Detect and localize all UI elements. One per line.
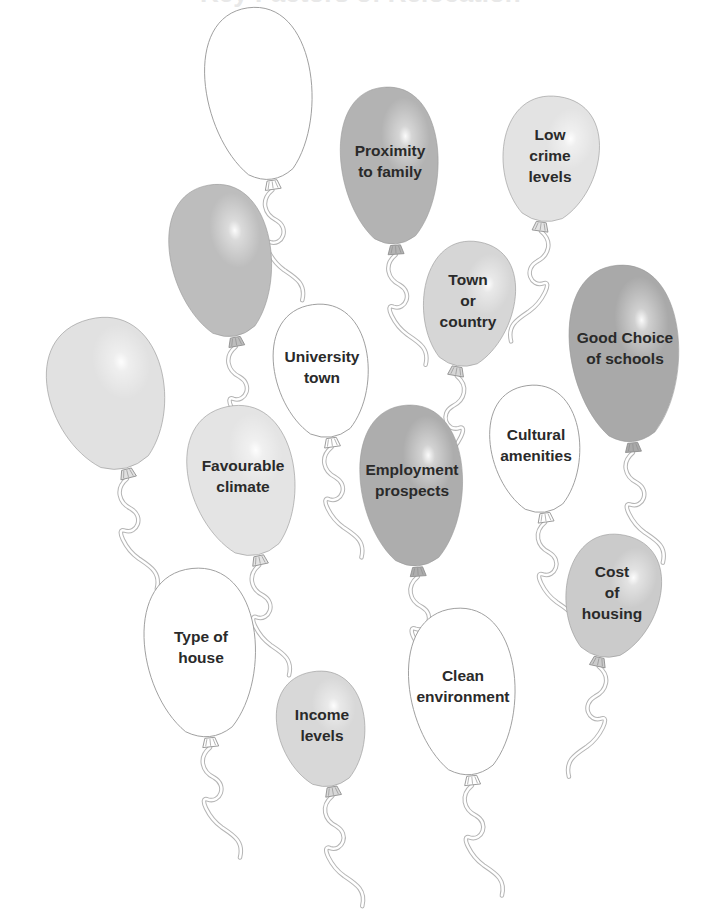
balloon-blank-left — [33, 305, 185, 492]
balloon-string — [120, 479, 158, 589]
balloon-string — [568, 667, 606, 777]
balloon-string — [324, 447, 362, 557]
balloon-cost-housing — [551, 526, 671, 676]
balloon-string — [265, 190, 303, 300]
balloon-string — [465, 786, 503, 896]
balloon-string — [388, 255, 426, 365]
balloon-university — [266, 298, 379, 453]
balloon-good-schools — [563, 261, 688, 457]
balloon-proximity — [336, 84, 445, 258]
balloon-cultural — [483, 379, 590, 528]
balloon-string — [325, 796, 363, 906]
balloons-canvas — [0, 0, 712, 912]
balloon-string — [510, 231, 548, 341]
balloon-diagram: Key Factors of Relocation Proximityto fa… — [0, 0, 712, 912]
balloon-blank-mid — [159, 176, 287, 354]
balloon-string — [388, 255, 426, 365]
balloon-string — [324, 447, 362, 557]
balloon-low-crime — [493, 90, 607, 238]
balloon-string — [252, 565, 290, 675]
balloon-income — [269, 664, 377, 803]
balloon-string — [465, 786, 503, 896]
balloon-string — [510, 231, 548, 341]
balloon-string — [120, 479, 158, 589]
balloon-string — [568, 667, 606, 777]
balloon-string — [265, 190, 303, 300]
balloon-type-house — [137, 563, 266, 753]
balloon-string — [203, 748, 241, 858]
balloon-shapes — [33, 1, 688, 804]
balloon-string — [203, 748, 241, 858]
balloon-climate — [175, 396, 312, 576]
balloon-blank-top — [195, 1, 325, 197]
balloon-clean-env — [402, 603, 526, 790]
balloon-string — [252, 565, 290, 675]
balloon-string — [325, 796, 363, 906]
